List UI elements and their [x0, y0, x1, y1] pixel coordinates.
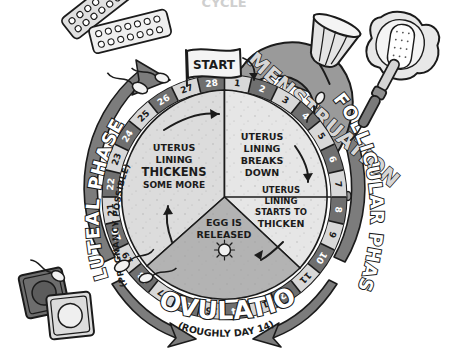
- svg-text:LINING: LINING: [265, 196, 298, 206]
- svg-text:UTERUS: UTERUS: [262, 185, 300, 195]
- egg-icon: [215, 240, 235, 260]
- svg-text:LINING: LINING: [244, 143, 281, 154]
- ring-day-number: 28: [205, 78, 219, 89]
- ring-day-number: 1: [234, 78, 241, 89]
- svg-text:UTERUS: UTERUS: [153, 142, 196, 153]
- ring-day-number: 8: [333, 206, 344, 213]
- svg-text:THICKEN: THICKEN: [258, 218, 305, 229]
- ring-day-number: 7: [333, 181, 344, 188]
- segment-follicular-text: UTERUS LINING STARTS TO THICKEN: [255, 185, 307, 229]
- svg-text:EGG IS: EGG IS: [206, 217, 242, 228]
- svg-text:THICKENS: THICKENS: [142, 165, 207, 179]
- svg-text:BREAKS: BREAKS: [241, 155, 284, 166]
- svg-text:LINING: LINING: [156, 154, 193, 165]
- ring-day-number: 22: [105, 177, 116, 191]
- page-title-cutoff: CYCLE: [201, 0, 246, 10]
- condom-packet-light: [46, 291, 94, 339]
- segment-menstruation-text: UTERUS LINING BREAKS DOWN: [241, 131, 284, 178]
- svg-text:SOME MORE: SOME MORE: [143, 180, 205, 190]
- svg-text:DOWN: DOWN: [245, 167, 279, 178]
- svg-text:RELEASED: RELEASED: [197, 229, 252, 240]
- svg-text:UTERUS: UTERUS: [241, 131, 284, 142]
- start-flag-label: START: [193, 58, 236, 72]
- cycle-infographic: CYCLE MENSTRUATION 123456789101112131415…: [0, 0, 449, 355]
- svg-text:STARTS TO: STARTS TO: [255, 207, 307, 217]
